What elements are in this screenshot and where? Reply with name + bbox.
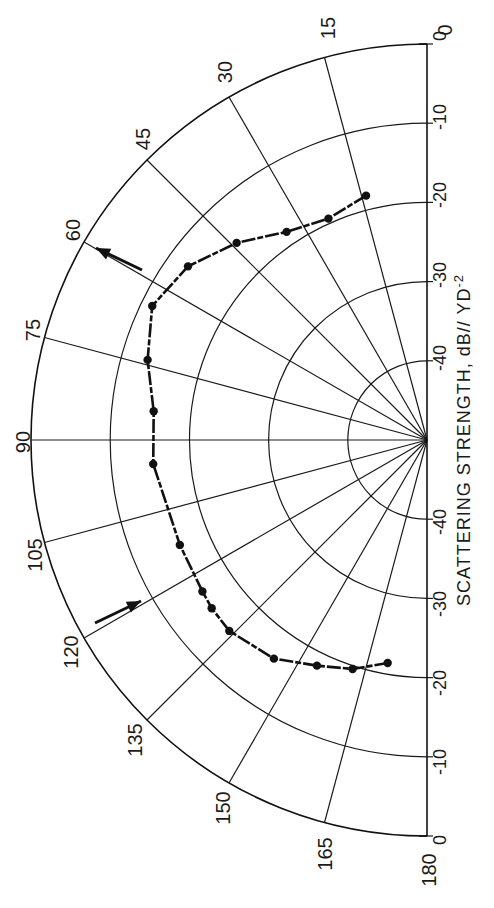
angle-label-165: 165 [314, 837, 336, 870]
data-point [148, 302, 156, 310]
data-point [313, 661, 321, 669]
data-point [324, 214, 332, 222]
data-point [143, 356, 151, 364]
radial-label-lower-20: -20 [430, 670, 450, 696]
data-point [176, 541, 184, 549]
angle-label-45: 45 [132, 128, 154, 150]
polar-chart: 0 15 30 45 60 75 90 105 120 135 150 165 … [0, 0, 494, 908]
radial-label-lower-30: -30 [430, 591, 450, 617]
angle-label-120: 120 [60, 635, 82, 668]
radial-label-upper-0: 0 [430, 31, 450, 41]
data-point [149, 460, 157, 468]
radial-label-lower-40: -40 [430, 509, 450, 535]
radial-label-lower-10: -10 [430, 749, 450, 775]
angle-label-105: 105 [24, 538, 46, 571]
grid-spoke [229, 97, 427, 440]
data-point [207, 604, 215, 612]
grid-spoke [229, 440, 427, 783]
radial-label-upper-30: -30 [430, 262, 450, 288]
grid-spoke [84, 440, 427, 638]
radial-label-upper-20: -20 [430, 182, 450, 208]
angle-label-180: 180 [418, 853, 440, 886]
data-point [383, 659, 391, 667]
grid-spoke [147, 440, 427, 720]
angle-label-30: 30 [214, 61, 236, 83]
angle-label-15: 15 [317, 17, 339, 39]
grid-spoke [84, 242, 427, 440]
data-point [225, 627, 233, 635]
angle-label-150: 150 [212, 791, 234, 824]
data-point [362, 191, 370, 199]
data-point [348, 665, 356, 673]
axis-title-text: SCATTERING STRENGTH, dB// YD [454, 288, 474, 606]
axis-title-superscript: -2 [451, 274, 466, 288]
polar-grid [31, 44, 433, 836]
data-point [270, 654, 278, 662]
data-point [282, 228, 290, 236]
radial-label-upper-40: -40 [430, 345, 450, 371]
grid-spoke [325, 57, 427, 440]
data-point [149, 407, 157, 415]
radial-tick-labels: 0 -10 -20 -30 -40 -40 -30 -20 -10 0 [430, 31, 450, 845]
radial-label-upper-10: -10 [430, 104, 450, 130]
data-point [232, 239, 240, 247]
data-point [198, 587, 206, 595]
angle-label-75: 75 [22, 319, 44, 341]
data-line [148, 196, 388, 669]
direction-arrows [95, 248, 142, 623]
angle-label-135: 135 [124, 723, 146, 756]
angle-label-90: 90 [12, 431, 34, 453]
grid-spoke [325, 440, 427, 823]
angular-tick-labels: 0 15 30 45 60 75 90 105 120 135 150 165 … [12, 17, 456, 887]
radial-label-lower-0: 0 [430, 835, 450, 845]
data-point [184, 262, 192, 270]
grid-spoke [147, 160, 427, 440]
grid-spoke [44, 440, 427, 542]
grid-spoke [44, 338, 427, 440]
angle-label-60: 60 [62, 219, 84, 241]
radial-axis-title: SCATTERING STRENGTH, dB// YD-2 [451, 274, 474, 606]
